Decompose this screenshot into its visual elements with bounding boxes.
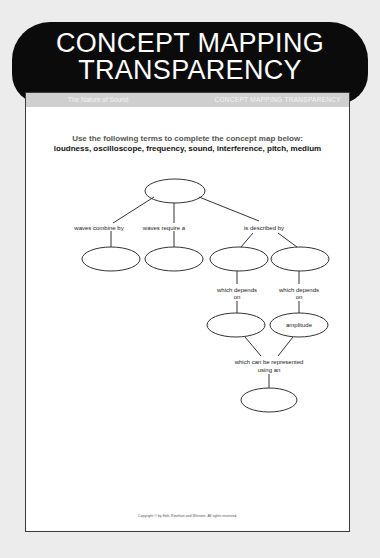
link-which-depends-on-right-2: on [296, 294, 303, 300]
node-bottom [241, 388, 297, 412]
link-which-depends-on-left-1: which depends [216, 287, 257, 293]
node-top [145, 179, 205, 203]
banner-title-line1: CONCEPT MAPPING [12, 30, 368, 57]
link-waves-combine-by: waves combine by [73, 225, 123, 231]
node-depends-left [207, 313, 265, 337]
node-described-left [210, 247, 268, 271]
banner-title-line2: TRANSPARENCY [12, 57, 368, 84]
node-require [145, 247, 203, 271]
link-waves-require-a: waves require a [142, 225, 186, 231]
link-which-depends-on-right-1: which depends [278, 287, 319, 293]
node-combine [82, 247, 140, 271]
copyright-notice: Copyright © by Holt, Rinehart and Winsto… [26, 513, 349, 519]
node-label-amplitude: amplitude [286, 322, 313, 328]
link-represented-1: which can be represented [234, 359, 304, 365]
banner-title: CONCEPT MAPPING TRANSPARENCY [12, 30, 368, 84]
concept-map: waves combine by waves require a is desc… [26, 93, 351, 533]
worksheet-page: The Nature of Sound CONCEPT MAPPING TRAN… [25, 92, 350, 532]
link-is-described-by: is described by [244, 225, 284, 231]
link-which-depends-on-left-2: on [234, 294, 241, 300]
link-represented-2: using an [258, 367, 281, 373]
node-described-right [271, 247, 329, 271]
